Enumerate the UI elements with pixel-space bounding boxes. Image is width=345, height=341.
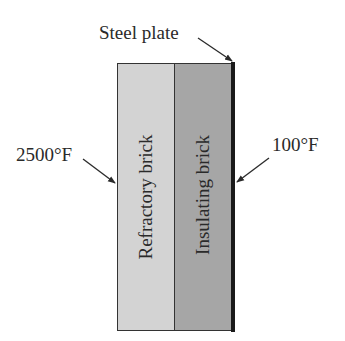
hot-side-arrow-icon bbox=[83, 159, 115, 183]
steel-plate-arrow-icon bbox=[198, 38, 232, 61]
cold-side-arrow-icon bbox=[237, 158, 269, 182]
callout-arrows bbox=[0, 0, 345, 341]
